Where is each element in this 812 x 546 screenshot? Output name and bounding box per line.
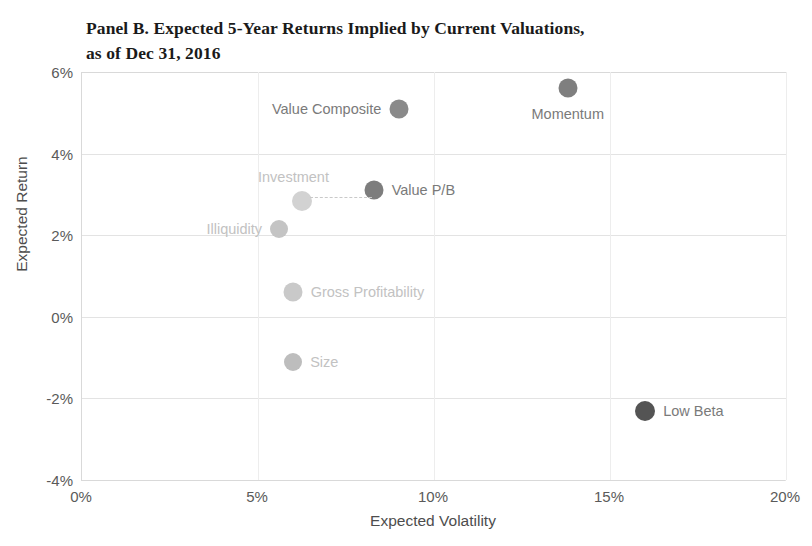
y-axis-tick-label: 6% xyxy=(5,64,73,81)
data-point[interactable] xyxy=(558,79,577,98)
data-point-label: Size xyxy=(310,354,338,370)
data-point-label: Value P/B xyxy=(392,182,455,198)
page-title: Panel B. Expected 5-Year Returns Implied… xyxy=(86,16,776,66)
x-axis-tick-label: 10% xyxy=(398,488,468,505)
gridline-vertical xyxy=(786,72,787,480)
data-point[interactable] xyxy=(635,401,655,421)
gridline-vertical xyxy=(258,72,259,480)
data-point[interactable] xyxy=(270,220,288,238)
data-point[interactable] xyxy=(292,191,312,211)
x-axis-line xyxy=(81,480,785,481)
data-point[interactable] xyxy=(284,283,303,302)
y-axis-title: Expected Return xyxy=(13,94,31,334)
gridline-vertical xyxy=(434,72,435,480)
y-axis-tick-label: -2% xyxy=(5,390,73,407)
data-point-label: Momentum xyxy=(531,106,604,122)
x-axis-title: Expected Volatility xyxy=(81,512,785,530)
data-point-label: Low Beta xyxy=(663,403,723,419)
data-point[interactable] xyxy=(284,353,302,371)
y-axis-tick-labels: 6%4%2%0%-2%-4% xyxy=(0,0,73,546)
plot-area: MomentumValue CompositeValue P/BInvestme… xyxy=(81,72,786,480)
chart-figure: Panel B. Expected 5-Year Returns Implied… xyxy=(0,0,812,546)
x-axis-tick-label: 15% xyxy=(574,488,644,505)
x-axis-tick-label: 0% xyxy=(46,488,116,505)
data-point-label: Gross Profitability xyxy=(311,284,425,300)
x-axis-tick-label: 20% xyxy=(750,488,812,505)
y-axis-tick-label: -4% xyxy=(5,472,73,489)
x-axis-tick-label: 5% xyxy=(222,488,292,505)
gridline-vertical xyxy=(610,72,611,480)
label-leader-line xyxy=(310,197,372,198)
data-point[interactable] xyxy=(389,99,408,118)
data-point-label: Investment xyxy=(258,169,329,185)
data-point-label: Illiquidity xyxy=(207,221,263,237)
data-point-label: Value Composite xyxy=(272,101,381,117)
